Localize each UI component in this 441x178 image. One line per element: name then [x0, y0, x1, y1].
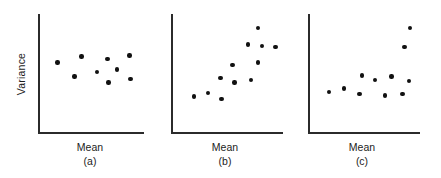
- data-point: [230, 63, 234, 67]
- data-point: [79, 54, 83, 58]
- panel-a-axes: [38, 14, 144, 134]
- panel-b-plot-area: [173, 14, 283, 132]
- panel-b-tag: (b): [163, 154, 287, 168]
- panel-b-x-axis-label: Mean: [163, 140, 287, 154]
- panel-c-x-axis-line: [308, 132, 420, 134]
- data-point: [95, 70, 99, 74]
- data-point: [105, 57, 109, 61]
- data-point: [219, 97, 223, 101]
- panel-c-caption: Mean (c): [300, 140, 424, 168]
- data-point: [232, 80, 236, 84]
- scatter-panel-figure: Variance Mean (a) Mean (b): [0, 0, 441, 178]
- data-point: [402, 45, 406, 49]
- panel-c: Mean (c): [300, 0, 424, 178]
- data-point: [407, 79, 411, 83]
- data-point: [106, 80, 110, 84]
- panel-a: Mean (a): [30, 0, 150, 178]
- data-point: [408, 26, 412, 30]
- panel-c-tag: (c): [300, 154, 424, 168]
- panel-b-caption: Mean (b): [163, 140, 287, 168]
- data-point: [389, 74, 393, 78]
- data-point: [128, 77, 132, 81]
- data-point: [192, 94, 196, 98]
- data-point: [373, 78, 377, 82]
- data-point: [400, 92, 404, 96]
- data-point: [55, 60, 59, 64]
- y-axis-label: Variance: [15, 53, 27, 95]
- panel-a-tag: (a): [30, 154, 150, 168]
- data-point: [72, 74, 76, 78]
- panel-c-axes: [308, 14, 420, 134]
- panel-a-x-axis-line: [38, 132, 144, 134]
- data-point: [360, 73, 364, 77]
- panel-c-plot-area: [310, 14, 420, 132]
- data-point: [206, 91, 210, 95]
- data-point: [256, 60, 260, 64]
- data-point: [127, 53, 131, 57]
- data-point: [383, 93, 387, 97]
- panel-a-plot-area: [40, 14, 144, 132]
- data-point: [246, 42, 250, 46]
- data-point: [115, 67, 119, 71]
- data-point: [256, 26, 260, 30]
- panel-a-x-axis-label: Mean: [30, 140, 150, 154]
- data-point: [327, 90, 331, 94]
- data-point: [249, 78, 253, 82]
- panel-a-caption: Mean (a): [30, 140, 150, 168]
- data-point: [260, 44, 264, 48]
- data-point: [218, 76, 222, 80]
- panel-b-axes: [171, 14, 283, 134]
- data-point: [273, 45, 277, 49]
- panel-b: Mean (b): [163, 0, 287, 178]
- data-point: [342, 86, 346, 90]
- data-point: [357, 92, 361, 96]
- panel-c-x-axis-label: Mean: [300, 140, 424, 154]
- panel-b-x-axis-line: [171, 132, 283, 134]
